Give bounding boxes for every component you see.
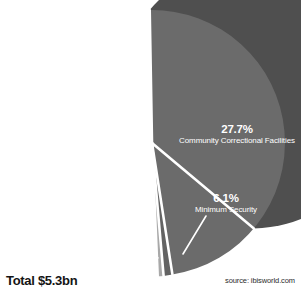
leader-line-maximum-security: [120, 238, 158, 258]
pie-chart-figure: 63.6% Medium Security 27.7% Community Co…: [0, 0, 301, 294]
chart-total-label: Total $5.3bn: [6, 273, 77, 288]
pie-chart-svg: [0, 0, 301, 294]
chart-source-label: source: ibisworld.com: [225, 276, 295, 285]
